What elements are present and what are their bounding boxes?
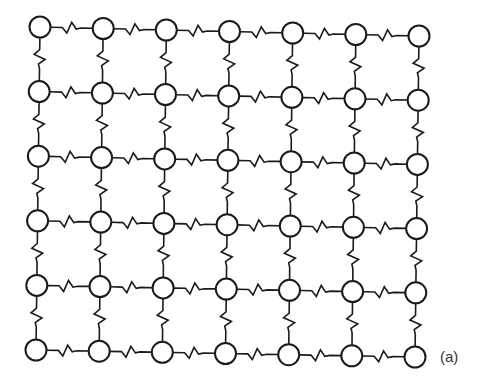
mass-node [405, 282, 426, 303]
vertical-spring [413, 47, 424, 90]
vertical-spring [224, 42, 235, 85]
horizontal-spring [174, 219, 216, 230]
horizontal-spring [302, 93, 344, 104]
vertical-spring [286, 108, 297, 151]
mass-node [341, 345, 362, 366]
mass-node [26, 340, 47, 361]
mass-node [26, 275, 47, 296]
horizontal-spring [114, 24, 156, 35]
mass-node [156, 20, 177, 41]
mass-node [89, 341, 110, 362]
vertical-spring [157, 298, 168, 341]
vertical-spring [221, 235, 232, 278]
horizontal-spring [364, 223, 406, 234]
vertical-spring [158, 234, 169, 278]
mass-node [155, 84, 176, 105]
horizontal-spring [111, 282, 153, 293]
horizontal-spring [237, 284, 279, 295]
horizontal-spring [113, 88, 155, 99]
vertical-spring [95, 233, 106, 277]
spring-lattice-diagram: (a) [0, 0, 489, 389]
mass-node [409, 26, 430, 47]
springs-layer [31, 22, 424, 362]
figure-label: (a) [440, 348, 458, 365]
horizontal-spring [175, 154, 217, 165]
mass-node [90, 212, 111, 233]
horizontal-spring [362, 351, 404, 362]
horizontal-spring [51, 22, 93, 33]
horizontal-spring [300, 286, 342, 297]
mass-node [282, 23, 303, 44]
mass-node [154, 148, 175, 169]
mass-node [278, 344, 299, 365]
mass-node [217, 214, 238, 235]
mass-node [153, 213, 174, 234]
mass-node [216, 279, 237, 300]
mass-node [152, 342, 173, 363]
vertical-spring [349, 109, 360, 152]
vertical-spring [31, 296, 42, 340]
vertical-spring [32, 231, 43, 275]
mass-node [345, 88, 366, 109]
vertical-spring [348, 174, 359, 217]
mass-node [215, 343, 236, 364]
horizontal-spring [302, 157, 344, 168]
horizontal-spring [111, 217, 153, 228]
horizontal-spring [238, 220, 280, 231]
mass-node [408, 90, 429, 111]
mass-node [343, 217, 364, 238]
horizontal-spring [236, 349, 278, 360]
vertical-spring [350, 45, 361, 88]
mass-node [345, 24, 366, 45]
mass-node [405, 347, 426, 368]
horizontal-spring [49, 151, 91, 162]
mass-node [407, 154, 428, 175]
vertical-spring [161, 41, 172, 85]
mass-node [344, 153, 365, 174]
horizontal-spring [366, 30, 408, 41]
horizontal-spring [176, 90, 218, 101]
horizontal-spring [50, 87, 92, 98]
horizontal-spring [301, 221, 343, 232]
horizontal-spring [177, 25, 219, 36]
vertical-spring [222, 171, 233, 214]
vertical-spring [97, 104, 108, 148]
horizontal-spring [363, 287, 405, 298]
mass-node [280, 216, 301, 237]
mass-node [279, 280, 300, 301]
vertical-spring [285, 172, 296, 215]
mass-node [30, 17, 51, 38]
horizontal-spring [47, 281, 89, 292]
horizontal-spring [47, 345, 89, 356]
vertical-spring [410, 303, 421, 346]
horizontal-spring [239, 91, 281, 102]
mass-node [217, 150, 238, 171]
vertical-spring [221, 300, 232, 343]
vertical-spring [287, 44, 298, 87]
mass-node [406, 218, 427, 239]
mass-node [281, 87, 302, 108]
mass-node [29, 81, 50, 102]
vertical-spring [412, 175, 423, 218]
mass-node [218, 85, 239, 106]
horizontal-spring [299, 350, 341, 361]
horizontal-spring [240, 27, 282, 38]
mass-node [27, 210, 48, 231]
vertical-spring [347, 302, 358, 345]
horizontal-spring [48, 216, 90, 227]
mass-node [91, 147, 112, 168]
mass-node [281, 151, 302, 172]
vertical-spring [94, 297, 105, 341]
vertical-spring [411, 239, 422, 282]
mass-node [93, 18, 114, 39]
mass-node [90, 276, 111, 297]
mass-node [92, 83, 113, 104]
horizontal-spring [365, 158, 407, 169]
vertical-spring [223, 106, 234, 149]
vertical-spring [34, 38, 45, 82]
horizontal-spring [110, 346, 152, 357]
mass-node [219, 21, 240, 42]
horizontal-spring [173, 347, 215, 358]
mass-node [342, 281, 363, 302]
horizontal-spring [366, 94, 408, 105]
